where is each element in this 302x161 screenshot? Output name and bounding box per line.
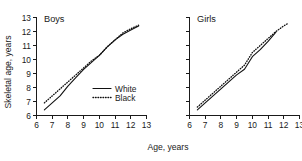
legend: White Black <box>93 84 137 103</box>
x-axis-title: Age, years <box>147 142 188 152</box>
chart-svg: Skeletal age, years 13 12 11 <box>0 0 302 161</box>
y-axis-title: Skeletal age, years <box>3 35 13 108</box>
girls-x-tick-labels: 6 7 8 9 10 11 12 13 <box>187 120 302 130</box>
x-tick-label-9: 9 <box>81 120 86 130</box>
boys-x-ticks <box>37 116 147 120</box>
panel-boys: 13 12 11 10 9 8 7 6 6 <box>22 13 152 130</box>
girls-series-white-line <box>197 32 276 110</box>
y-tick-label-7: 7 <box>26 97 31 107</box>
y-tick-label-10: 10 <box>22 55 32 65</box>
x-tick-label-9: 9 <box>234 120 239 130</box>
y-tick-label-8: 8 <box>26 83 31 93</box>
panel-girls: 6 7 8 9 10 11 12 13 Girls <box>186 14 302 130</box>
boys-x-tick-labels: 6 7 8 9 10 11 12 13 <box>34 120 151 130</box>
x-tick-label-12: 12 <box>126 120 136 130</box>
girls-x-ticks <box>190 116 300 120</box>
x-tick-label-10: 10 <box>248 120 258 130</box>
x-tick-label-11: 11 <box>264 120 273 130</box>
x-tick-label-8: 8 <box>219 120 224 130</box>
x-tick-label-8: 8 <box>66 120 71 130</box>
figure-container: Skeletal age, years 13 12 11 <box>0 0 302 161</box>
x-tick-label-13: 13 <box>295 120 302 130</box>
y-tick-label-6: 6 <box>26 111 31 121</box>
legend-label-black: Black <box>115 93 136 103</box>
x-tick-label-13: 13 <box>142 120 152 130</box>
x-tick-label-6: 6 <box>34 120 39 130</box>
x-tick-label-11: 11 <box>111 120 120 130</box>
boys-y-ticks <box>33 18 37 116</box>
boys-y-tick-labels: 13 12 11 10 9 8 7 6 <box>22 13 32 121</box>
x-tick-label-7: 7 <box>203 120 208 130</box>
panel-title-boys: Boys <box>44 14 65 24</box>
x-tick-label-7: 7 <box>50 120 55 130</box>
panel-title-girls: Girls <box>197 14 216 24</box>
y-tick-label-12: 12 <box>22 27 32 37</box>
x-tick-label-10: 10 <box>95 120 105 130</box>
y-tick-label-11: 11 <box>22 41 31 51</box>
girls-series-black-line <box>197 23 288 107</box>
x-tick-label-12: 12 <box>279 120 289 130</box>
y-tick-label-13: 13 <box>22 13 32 23</box>
girls-y-ticks <box>186 18 190 116</box>
y-tick-label-9: 9 <box>26 69 31 79</box>
x-tick-label-6: 6 <box>187 120 192 130</box>
